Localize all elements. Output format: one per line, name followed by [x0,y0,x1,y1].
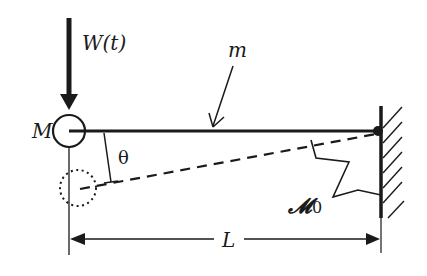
force-arrow [60,18,78,110]
length-label: L [221,228,235,252]
beam-mass-pointer [209,66,233,127]
angle-label: θ [118,147,129,168]
torsional-spring [311,140,381,197]
spring-label-subscript: 0 [312,198,322,217]
angle-indicator [104,133,118,183]
beam-mass-label: m [228,38,247,62]
displaced-mass-circle [60,170,96,206]
spring-label: 𝓜0 [287,193,322,218]
cantilever-diagram: W(t) M θ m 𝓜0 [0,0,427,276]
tip-mass-label: M [31,119,53,143]
wall-hatching [383,107,404,218]
force-label: W(t) [82,31,126,55]
fixed-wall [381,106,404,253]
